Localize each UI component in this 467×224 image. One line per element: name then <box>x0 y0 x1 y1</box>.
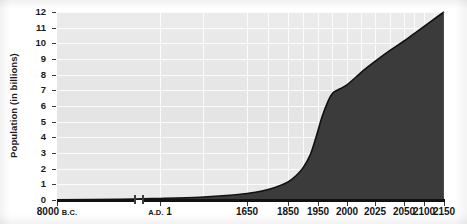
plot-area <box>57 12 444 200</box>
x-axis-line-right-segment <box>143 199 445 202</box>
y-label-11: 11 <box>24 22 46 33</box>
axis-break-mark-left <box>134 195 136 204</box>
y-tick-12 <box>52 12 56 13</box>
y-tick-5 <box>52 122 56 123</box>
y-tick-0 <box>52 200 56 201</box>
y-tick-2 <box>52 169 56 170</box>
axis-break-mark-right <box>142 195 144 204</box>
x-label-9: 2150 <box>433 206 455 217</box>
y-label-1: 1 <box>24 178 46 189</box>
y-axis-title-text: Population (in billions) <box>8 53 19 158</box>
y-label-0: 0 <box>24 194 46 205</box>
x-label-4: 1950 <box>307 206 329 217</box>
population-area-curve <box>57 12 444 200</box>
plot-right-border <box>443 12 444 200</box>
y-label-12: 12 <box>24 6 46 17</box>
y-label-7: 7 <box>24 84 46 95</box>
y-tick-11 <box>52 28 56 29</box>
y-label-2: 2 <box>24 163 46 174</box>
y-label-8: 8 <box>24 69 46 80</box>
x-label-0: 8000 B.C. <box>37 206 77 217</box>
y-tick-8 <box>52 75 56 76</box>
x-label-7: 2050 <box>393 206 415 217</box>
x-label-5: 2000 <box>336 206 358 217</box>
y-tick-10 <box>52 43 56 44</box>
x-label-2: 1650 <box>236 206 258 217</box>
y-axis-title: Population (in billions) <box>0 0 26 210</box>
y-tick-6 <box>52 106 56 107</box>
y-label-9: 9 <box>24 53 46 64</box>
y-label-4: 4 <box>24 131 46 142</box>
population-growth-chart: Population (in billions) 121110987654321… <box>0 0 467 224</box>
y-label-5: 5 <box>24 116 46 127</box>
y-tick-7 <box>52 90 56 91</box>
x-label-3: 1850 <box>277 206 299 217</box>
y-label-3: 3 <box>24 147 46 158</box>
y-tick-1 <box>52 184 56 185</box>
y-label-10: 10 <box>24 37 46 48</box>
y-label-6: 6 <box>24 100 46 111</box>
y-tick-4 <box>52 137 56 138</box>
x-label-6: 2025 <box>364 206 386 217</box>
x-label-8: 2100 <box>413 206 435 217</box>
y-tick-9 <box>52 59 56 60</box>
x-axis-line-left-segment <box>57 199 135 202</box>
x-label-1: A.D. 1 <box>148 206 172 217</box>
area-fill-path <box>57 12 444 200</box>
y-tick-3 <box>52 153 56 154</box>
